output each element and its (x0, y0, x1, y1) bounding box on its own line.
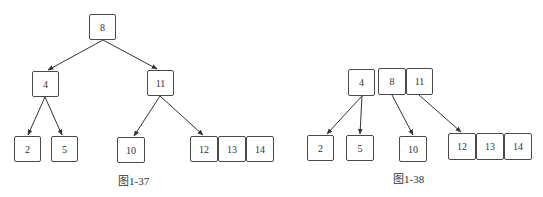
edge-8-to-11 (103, 40, 157, 69)
tree-node-8: 8 (378, 68, 406, 95)
tree-node-13: 13 (476, 133, 504, 160)
tree-node-10: 10 (399, 136, 427, 162)
edge-11-to-12 (419, 95, 461, 132)
tree-node-5: 5 (51, 136, 78, 162)
edges-layer (0, 0, 543, 197)
tree-node-2: 2 (14, 136, 41, 162)
edge-4-to-5 (360, 96, 362, 134)
tree-node-14: 14 (246, 136, 274, 162)
tree-node-10: 10 (117, 137, 145, 163)
figure-caption: 图1-38 (393, 170, 424, 186)
tree-node-13: 13 (218, 136, 246, 162)
edge-4-to-2 (28, 97, 45, 135)
edge-8-to-4 (48, 40, 103, 70)
tree-node-4: 4 (32, 71, 59, 97)
tree-node-12: 12 (448, 133, 476, 160)
figure-caption: 图1-37 (118, 172, 149, 188)
fig-1-38-edges (327, 95, 461, 135)
edge-8-to-10 (392, 95, 413, 135)
tree-node-4: 4 (348, 69, 375, 96)
edge-4-to-5 (45, 97, 62, 135)
tree-node-5: 5 (346, 135, 374, 161)
edge-4-to-2 (327, 96, 362, 134)
edge-11-to-10 (134, 96, 160, 136)
edge-11-to-12 (160, 96, 203, 135)
tree-node-11: 11 (406, 68, 433, 95)
tree-node-12: 12 (190, 136, 218, 162)
tree-node-11: 11 (147, 70, 174, 96)
tree-node-8: 8 (89, 14, 116, 40)
tree-node-2: 2 (307, 135, 334, 161)
tree-node-14: 14 (504, 133, 532, 160)
